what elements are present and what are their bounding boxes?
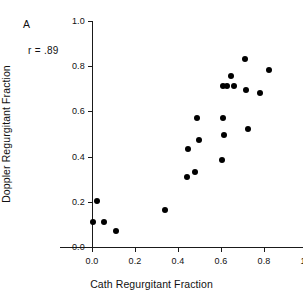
y-axis-spine xyxy=(92,21,93,248)
x-tick-mark xyxy=(221,247,222,252)
x-tick-label: 0.8 xyxy=(257,256,270,266)
x-tick-mark xyxy=(178,247,179,252)
data-point xyxy=(162,207,168,213)
x-axis-spine xyxy=(60,247,303,248)
data-point xyxy=(228,73,234,79)
data-point xyxy=(101,219,107,225)
y-tick-label: 0.0 xyxy=(72,242,85,252)
data-point xyxy=(242,56,248,62)
data-point xyxy=(90,219,96,225)
x-tick-mark xyxy=(135,247,136,252)
y-tick-mark xyxy=(88,66,93,67)
data-point xyxy=(245,126,251,132)
y-tick-mark xyxy=(88,111,93,112)
data-point xyxy=(219,157,225,163)
scatter-plot-figure: Doppler Regurgitant Fraction Cath Regurg… xyxy=(0,0,303,301)
data-point xyxy=(192,169,198,175)
x-tick-label: 0.0 xyxy=(85,256,98,266)
plot-area: 0.00.20.40.60.81.0 0.00.20.40.60.81.0 xyxy=(92,21,303,247)
data-point xyxy=(221,132,227,138)
data-point xyxy=(196,137,202,143)
x-tick-label: 0.2 xyxy=(128,256,141,266)
data-point xyxy=(185,146,191,152)
data-point xyxy=(266,67,272,73)
x-tick-mark xyxy=(264,247,265,252)
y-tick-label: 1.0 xyxy=(72,16,85,26)
x-axis-title: Cath Regurgitant Fraction xyxy=(0,278,303,290)
y-tick-mark xyxy=(88,202,93,203)
y-tick-label: 0.2 xyxy=(72,197,85,207)
x-tick-label: 0.6 xyxy=(214,256,227,266)
y-tick-mark xyxy=(88,157,93,158)
y-axis-title: Doppler Regurgitant Fraction xyxy=(0,65,12,203)
y-tick-label: 0.8 xyxy=(72,61,85,71)
data-point xyxy=(94,198,100,204)
x-tick-mark xyxy=(92,247,93,252)
data-point xyxy=(113,228,119,234)
data-point xyxy=(184,174,190,180)
data-point xyxy=(224,83,230,89)
data-point xyxy=(220,115,226,121)
y-tick-label: 0.6 xyxy=(72,106,85,116)
x-tick-label: 1.0 xyxy=(300,256,303,266)
y-tick-mark xyxy=(88,21,93,22)
x-tick-label: 0.4 xyxy=(171,256,184,266)
data-point xyxy=(231,83,237,89)
data-point xyxy=(257,90,263,96)
y-tick-label: 0.4 xyxy=(72,152,85,162)
panel-label: A xyxy=(23,18,30,30)
data-point xyxy=(194,115,200,121)
correlation-annotation: r = .89 xyxy=(28,45,59,56)
data-point xyxy=(243,87,249,93)
